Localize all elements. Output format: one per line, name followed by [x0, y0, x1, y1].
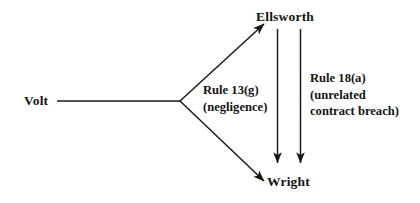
edge-label-rule-13g-line1: Rule 13(g) [203, 82, 267, 99]
edge-label-rule-13g: Rule 13(g) (negligence) [203, 82, 267, 115]
node-label-volt: Volt [24, 94, 48, 108]
edge-label-rule-13g-line2: (negligence) [203, 99, 267, 116]
node-label-ellsworth: Ellsworth [256, 10, 314, 24]
edge-label-rule-18a-line1: Rule 18(a) [310, 70, 399, 87]
edge-label-rule-18a: Rule 18(a) (unrelated contract breach) [310, 70, 399, 120]
edge-label-rule-18a-line3: contract breach) [310, 103, 399, 120]
diagram-canvas: Volt Ellsworth Wright Rule 13(g) (neglig… [0, 0, 420, 203]
edge-label-rule-18a-line2: (unrelated [310, 87, 399, 104]
node-label-wright: Wright [267, 175, 310, 189]
